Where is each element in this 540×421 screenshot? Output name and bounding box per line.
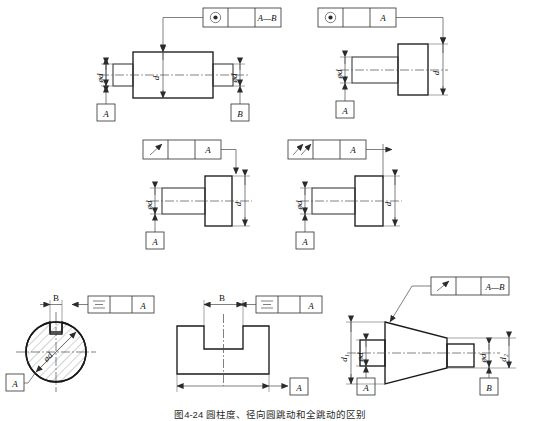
dim-label-diameter-left-tl: ød: [95, 73, 105, 84]
feature-control-frame-br[interactable]: A—B: [431, 277, 509, 295]
dim-left-mr: ød: [294, 188, 312, 214]
datum-feature-a-br[interactable]: A: [357, 366, 375, 395]
dim-left-tl: ød: [95, 58, 113, 92]
datum-feature-b-tl[interactable]: B: [231, 86, 249, 121]
datum-letter-b-br: B: [486, 383, 492, 393]
dim-label-d-mr: d: [383, 201, 393, 206]
feature-control-frame-mr[interactable]: A: [288, 140, 366, 159]
circular-runout-icon: [437, 281, 449, 291]
dim-b-bl: B: [40, 293, 62, 322]
total-runout-icon: [293, 144, 311, 155]
dim-label-b-bl: B: [53, 293, 59, 303]
dim-left-ml: ød: [144, 188, 162, 214]
datum-letter-a-mr: A: [301, 237, 308, 247]
datum-letter-a-tl: A: [102, 109, 109, 119]
datum-letter-a-bl: A: [11, 379, 18, 389]
drawing-sheet: A—B ød d: [0, 0, 540, 421]
frame-datum-text-bl: A: [139, 301, 146, 311]
part-outline-bm: [177, 314, 269, 386]
datum-feature-a-tl[interactable]: A: [97, 86, 115, 121]
feature-control-frame-bm[interactable]: A: [256, 296, 322, 313]
panel-mid-left: A ød d A: [143, 140, 252, 249]
dim-left-tr: ød: [334, 57, 352, 83]
feature-control-frame-bl[interactable]: A: [88, 296, 154, 313]
feature-control-frame-tr[interactable]: A: [318, 8, 396, 27]
frame-datum-text-tr: A: [379, 13, 386, 23]
panel-top-left: A—B ød d: [95, 8, 281, 121]
dim-label-diameter-left-br: ød: [355, 352, 365, 363]
dim-label-d-tl: d: [151, 75, 161, 80]
datum-letter-b-tl: B: [237, 109, 243, 119]
dim-label-d-ml: d: [233, 201, 243, 206]
symmetry-icon: [93, 301, 105, 308]
symmetry-icon: [261, 301, 273, 308]
dim-label-d-tr: d: [431, 70, 441, 75]
panel-top-right: A ød d A: [318, 8, 448, 118]
dim-label-b-bm: B: [219, 293, 225, 303]
datum-feature-a-bm[interactable]: A: [290, 378, 308, 395]
datum-letter-a-tr: A: [341, 106, 348, 116]
datum-feature-a-tr[interactable]: A: [336, 83, 354, 118]
leader-line-br: [390, 286, 431, 322]
leader-line-tr: [396, 18, 443, 45]
leader-line-ml: [221, 150, 236, 175]
datum-feature-a-mr[interactable]: A: [296, 214, 314, 249]
part-outline-mr: [300, 176, 402, 226]
circular-runout-icon: [150, 144, 162, 155]
leader-line-tl: [163, 18, 203, 52]
frame-datum-text-tl: A—B: [257, 13, 278, 23]
dim-journal-right-br: ød: [478, 344, 489, 367]
dim-label-diameter-right-tl: ød: [229, 73, 239, 84]
panel-bottom-left: A B ød A: [6, 293, 154, 392]
part-outline-br: [347, 322, 500, 384]
figure-caption: 图4-24 圆柱度、径向圆跳动和全跳动的区别: [174, 409, 366, 420]
datum-letter-a-br: A: [362, 383, 369, 393]
dim-label-diameter-ml: ød: [144, 200, 154, 211]
datum-letter-a-bm: A: [295, 383, 302, 393]
dim-label-diameter-mr: ød: [294, 200, 304, 211]
part-outline-tl: [100, 52, 248, 98]
frame-datum-text-ml: A: [204, 145, 211, 155]
dim-d-tr: d: [428, 44, 448, 95]
feature-control-frame-ml[interactable]: A: [143, 140, 221, 159]
datum-feature-b-br[interactable]: B: [480, 367, 498, 395]
dim-width-bm: [177, 374, 288, 392]
frame-datum-text-mr: A: [349, 145, 356, 155]
panel-bottom-right: A—B d₁ ød: [339, 277, 516, 395]
coaxiality-icon: [325, 12, 335, 22]
dim-label-d2-br: d₂: [498, 354, 508, 362]
dim-label-diameter-tr: ød: [334, 69, 344, 80]
frame-datum-text-bm: A: [307, 301, 314, 311]
feature-control-frame-tl[interactable]: A—B: [203, 8, 281, 27]
dim-label-diameter-right-br: ød: [478, 353, 488, 364]
panel-bottom-middle: A B A: [177, 293, 322, 395]
part-outline-ml: [150, 176, 252, 226]
part-outline-tr: [340, 44, 448, 95]
datum-feature-a-bl[interactable]: A: [6, 372, 36, 391]
datum-feature-a-ml[interactable]: A: [146, 214, 164, 249]
coaxiality-icon: [210, 12, 220, 22]
dim-label-d1-br: d₁: [339, 354, 349, 362]
frame-datum-text-br: A—B: [485, 282, 506, 292]
datum-letter-a-ml: A: [151, 237, 158, 247]
technical-drawing-canvas: A—B ød d: [0, 0, 540, 421]
panel-mid-right: A ød d A: [288, 140, 402, 249]
